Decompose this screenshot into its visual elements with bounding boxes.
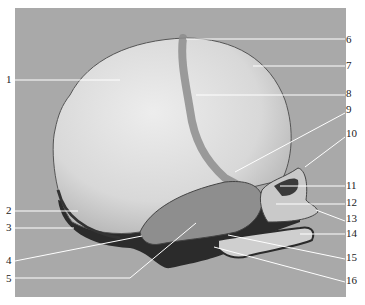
label-12: 12	[346, 197, 357, 208]
label-13: 13	[346, 213, 357, 224]
label-16: 16	[346, 275, 357, 286]
label-14: 14	[346, 228, 357, 239]
label-10: 10	[346, 128, 357, 139]
label-7: 7	[346, 60, 352, 71]
label-15: 15	[346, 252, 357, 263]
skull-illustration	[0, 0, 365, 305]
label-1: 1	[6, 74, 12, 85]
label-9: 9	[346, 104, 352, 115]
label-11: 11	[346, 180, 357, 191]
label-4: 4	[6, 255, 12, 266]
label-8: 8	[346, 88, 352, 99]
label-3: 3	[6, 222, 12, 233]
label-5: 5	[6, 273, 12, 284]
label-6: 6	[346, 34, 352, 45]
label-2: 2	[6, 205, 12, 216]
